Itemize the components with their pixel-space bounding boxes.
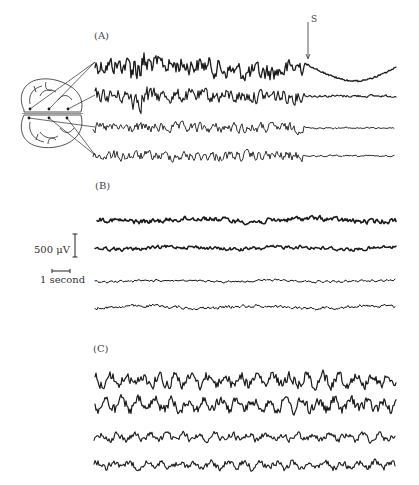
time-scale-bar xyxy=(52,269,70,273)
stimulus-label: S xyxy=(311,14,317,24)
electrode-lead xyxy=(29,118,95,127)
eeg-trace-group xyxy=(93,53,396,471)
voltage-scale-bar xyxy=(73,234,78,257)
electrode-dot xyxy=(66,117,69,120)
electrode-leads xyxy=(29,62,95,155)
trace-a-4 xyxy=(93,149,394,162)
trace-b-3 xyxy=(95,279,395,283)
trace-c-2 xyxy=(95,395,396,415)
electrode-dot xyxy=(29,108,32,111)
electrode-lead xyxy=(49,62,95,109)
voltage-scale-label: 500 μV xyxy=(34,244,70,255)
electrode-lead xyxy=(67,118,95,155)
time-scale-label: 1 second xyxy=(40,274,85,285)
panel-label-b: (B) xyxy=(95,180,110,191)
eeg-traces-canvas xyxy=(0,0,419,485)
electrode-dot xyxy=(28,117,31,120)
trace-b-4 xyxy=(95,304,395,310)
electrode-lead xyxy=(68,95,95,109)
stimulus-arrow xyxy=(306,22,310,59)
trace-b-2 xyxy=(95,245,396,251)
trace-b-1 xyxy=(97,216,396,225)
eeg-figure: (A) S (B) (C) 500 μV 1 second xyxy=(0,0,419,485)
electrode-lead xyxy=(30,62,95,109)
electrode-dot xyxy=(48,108,51,111)
trace-a-1 xyxy=(95,53,396,82)
trace-c-4 xyxy=(94,459,395,471)
panel-label-c: (C) xyxy=(93,343,108,354)
trace-c-3 xyxy=(94,431,395,443)
electrode-dot xyxy=(48,117,51,120)
trace-c-1 xyxy=(95,370,396,390)
electrode-dot xyxy=(67,108,70,111)
trace-a-2 xyxy=(95,87,396,114)
brain-diagram xyxy=(21,79,83,148)
trace-a-3 xyxy=(93,121,394,135)
panel-label-a: (A) xyxy=(94,30,109,41)
